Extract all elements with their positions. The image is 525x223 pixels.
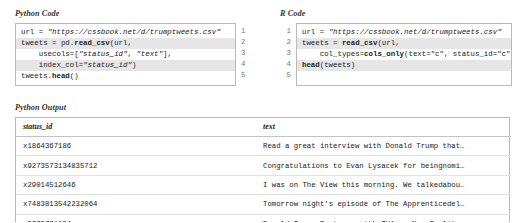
code-line: url = "https://cssbook.net/d/trumptweets… [297, 27, 511, 38]
line-number: 4 [236, 59, 252, 70]
code-token: ], [163, 50, 172, 58]
cell-text: Read a great interview with Donald Trump… [256, 137, 511, 156]
output-table: status_id text x1864367186Read a great i… [16, 118, 511, 222]
line-number: 4 [280, 59, 296, 70]
r-code-panel: R Code 12345 url = "https://cssbook.net/… [262, 8, 524, 86]
table-row: x1864367186Read a great interview with D… [16, 137, 511, 156]
r-code-lines: url = "https://cssbook.net/d/trumptweets… [297, 27, 511, 82]
code-token: tweets = [302, 39, 342, 47]
cell-status-id: x1864367186 [16, 137, 256, 156]
r-code-block[interactable]: url = "https://cssbook.net/d/trumptweets… [296, 23, 512, 86]
code-token: head [52, 72, 70, 80]
cell-status-id: x7483813542232064 [16, 195, 256, 214]
code-line: url = "https://cssbook.net/d/trumptweets… [16, 27, 235, 38]
code-token: tweets = pd. [21, 39, 74, 47]
code-line: tweets.head() [16, 71, 235, 82]
code-token: read_csv [342, 39, 377, 47]
r-code-wrap: 12345 url = "https://cssbook.net/d/trump… [280, 23, 512, 86]
line-number: 3 [236, 48, 252, 59]
table-row: x9273573134835712Congratulations to Evan… [16, 156, 511, 175]
code-token: url = [21, 28, 48, 36]
code-token: (text="c", status_id="c")) [404, 50, 512, 58]
cell-status-id: x5775731054 [16, 214, 256, 222]
code-panels: Python Code url = "https://cssbook.net/d… [0, 8, 525, 86]
code-line: tweets = pd.read_csv(url, [16, 38, 235, 49]
cell-text: Donald Trump Partners with TV1 on New Re… [256, 214, 511, 222]
line-number: 1 [236, 26, 252, 37]
python-code-panel: Python Code url = "https://cssbook.net/d… [0, 8, 262, 86]
table-row: x7483813542232064Tomorrow night's episod… [16, 195, 511, 214]
cell-text: Tomorrow night's episode of The Apprenti… [256, 195, 511, 214]
line-number: 5 [236, 70, 252, 81]
python-output-panel: Python Output status_id text x1864367186… [15, 102, 510, 222]
code-token: ) [132, 61, 136, 69]
python-code-block[interactable]: url = "https://cssbook.net/d/trumptweets… [15, 23, 236, 86]
line-number: 5 [280, 70, 296, 81]
code-token: index_col= [21, 61, 83, 69]
cell-status-id: x29014512646 [16, 175, 256, 194]
table-row: x5775731054Donald Trump Partners with TV… [16, 214, 511, 222]
code-token: cols_only [364, 50, 404, 58]
column-header-text: text [256, 118, 511, 137]
code-token: "text" [136, 50, 163, 58]
output-table-body: x1864367186Read a great interview with D… [16, 137, 511, 223]
cell-text: I was on The View this morning. We talke… [256, 175, 511, 194]
code-token: "status_id" [79, 50, 128, 58]
cell-text: Congratulations to Evan Lysacek for bein… [256, 156, 511, 175]
code-token: (url, [110, 39, 132, 47]
code-line [297, 71, 511, 82]
python-code-caption: Python Code [15, 8, 252, 19]
code-line: usecols=["status_id", "text"], [16, 49, 235, 60]
python-line-number-gutter: 12345 [236, 23, 252, 86]
python-code-lines: url = "https://cssbook.net/d/trumptweets… [16, 27, 235, 82]
code-line: col_types=cols_only(text="c", status_id=… [297, 49, 511, 60]
line-number: 2 [280, 37, 296, 48]
table-header-row: status_id text [16, 118, 511, 137]
column-header-status-id: status_id [16, 118, 256, 137]
code-token: head [302, 61, 320, 69]
code-line: head(tweets) [297, 60, 511, 71]
code-token: () [70, 72, 79, 80]
code-token: read_csv [74, 39, 109, 47]
python-code-wrap: url = "https://cssbook.net/d/trumptweets… [15, 23, 252, 86]
code-token: , [127, 50, 136, 58]
page-root: Python Code url = "https://cssbook.net/d… [0, 0, 525, 222]
python-output-caption: Python Output [15, 102, 510, 113]
code-token: col_types= [302, 50, 364, 58]
output-table-box: status_id text x1864367186Read a great i… [15, 117, 510, 222]
code-line: index_col="status_id") [16, 60, 235, 71]
code-token: url = [302, 28, 329, 36]
line-number: 3 [280, 48, 296, 59]
code-token: "status_id" [83, 61, 132, 69]
line-number: 1 [280, 26, 296, 37]
code-token: (tweets) [320, 61, 355, 69]
code-token: "https://cssbook.net/d/trumptweets.csv" [329, 28, 502, 36]
code-token: (url, [377, 39, 399, 47]
code-token: usecols=[ [21, 50, 79, 58]
table-row: x29014512646I was on The View this morni… [16, 175, 511, 194]
line-number: 2 [236, 37, 252, 48]
code-token: "https://cssbook.net/d/trumptweets.csv" [48, 28, 221, 36]
r-line-number-gutter: 12345 [280, 23, 296, 86]
cell-status-id: x9273573134835712 [16, 156, 256, 175]
r-code-caption: R Code [280, 8, 512, 19]
code-token: tweets. [21, 72, 52, 80]
code-line: tweets = read_csv(url, [297, 38, 511, 49]
